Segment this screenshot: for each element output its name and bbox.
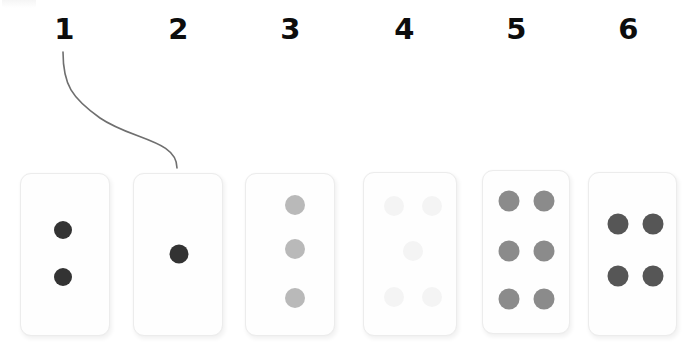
pip-area (483, 171, 569, 333)
pip-dot (422, 196, 442, 216)
pip-dot (54, 268, 72, 286)
number-label-6: 6 (608, 12, 648, 46)
pip-dot (608, 266, 629, 287)
number-label-2: 2 (158, 12, 198, 46)
number-label-1: 1 (44, 12, 84, 46)
pip-dot (285, 195, 305, 215)
pip-dot (534, 241, 555, 262)
pip-dot (285, 239, 305, 259)
pip-dot (403, 241, 423, 261)
pip-area (589, 173, 676, 335)
pip-area (134, 174, 222, 335)
pip-dot (534, 191, 555, 212)
pip-dot (608, 214, 629, 235)
scene-canvas: 123456 (0, 0, 691, 346)
pip-dot (422, 287, 442, 307)
pip-dot (384, 196, 404, 216)
pip-dot (54, 221, 72, 239)
curve-connector-icon (63, 52, 177, 168)
number-label-4: 4 (384, 12, 424, 46)
pip-area (21, 174, 109, 335)
pip-area (364, 173, 456, 335)
pip-dot (499, 241, 520, 262)
domino-card-6[interactable] (588, 172, 677, 336)
pip-dot (384, 287, 404, 307)
pip-dot (499, 191, 520, 212)
domino-card-4[interactable] (363, 172, 457, 336)
pip-dot (643, 214, 664, 235)
pip-dot (170, 245, 189, 264)
number-label-5: 5 (496, 12, 536, 46)
pip-dot (499, 289, 520, 310)
pip-dot (643, 266, 664, 287)
domino-card-1[interactable] (20, 173, 110, 336)
domino-card-5[interactable] (482, 170, 570, 334)
domino-card-3[interactable] (245, 173, 335, 336)
number-label-3: 3 (270, 12, 310, 46)
clipped-toolbar-fragment (2, 0, 36, 8)
domino-card-2[interactable] (133, 173, 223, 336)
pip-dot (285, 288, 305, 308)
pip-area (246, 174, 334, 335)
pip-dot (534, 289, 555, 310)
